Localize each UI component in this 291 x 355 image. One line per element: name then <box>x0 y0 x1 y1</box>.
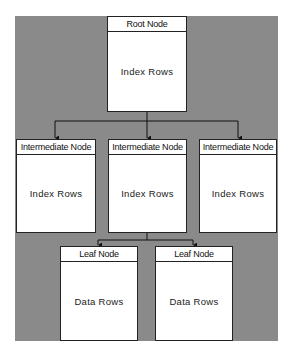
intermediate-node-header: Intermediate Node <box>109 140 186 155</box>
leaf-node: Leaf Node Data Rows <box>60 246 138 341</box>
intermediate-node: Intermediate Node Index Rows <box>108 139 187 233</box>
intermediate-node-header: Intermediate Node <box>17 140 95 155</box>
leaf-node: Leaf Node Data Rows <box>155 246 233 341</box>
intermediate-node-body: Index Rows <box>109 155 186 232</box>
intermediate-node-body: Index Rows <box>200 155 276 232</box>
leaf-node-body: Data Rows <box>61 262 137 340</box>
intermediate-node-header: Intermediate Node <box>200 140 276 155</box>
root-node-body: Index Rows <box>108 32 186 111</box>
leaf-node-header: Leaf Node <box>61 247 137 262</box>
intermediate-node: Intermediate Node Index Rows <box>16 139 96 233</box>
root-node-header: Root Node <box>108 17 186 32</box>
intermediate-node: Intermediate Node Index Rows <box>199 139 277 233</box>
leaf-node-body: Data Rows <box>156 262 232 340</box>
root-node: Root Node Index Rows <box>107 16 187 112</box>
leaf-node-header: Leaf Node <box>156 247 232 262</box>
intermediate-node-body: Index Rows <box>17 155 95 232</box>
